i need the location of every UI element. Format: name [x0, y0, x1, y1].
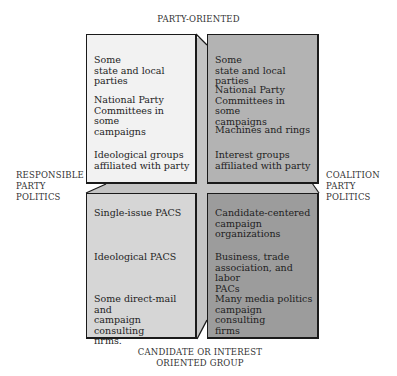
axis-label-line: POLITICS: [16, 192, 84, 203]
item-line: Candidate-centered: [215, 208, 313, 219]
axis-label-party-oriented: PARTY-ORIENTED: [0, 14, 397, 25]
axis-label-line: PARTY: [16, 181, 84, 192]
quadrant-item: National Party Committees in some campai…: [94, 95, 191, 137]
quadrant-item: Ideological PACS: [94, 252, 191, 263]
axis-label-line: RESPONSIBLE: [16, 170, 84, 181]
quadrant-item: Machines and rings: [215, 125, 313, 136]
horizontal-divider: [88, 183, 318, 193]
axis-label-line: CANDIDATE OR INTEREST: [60, 347, 340, 358]
item-line: National Party: [215, 85, 313, 96]
axis-label-line: ORIENTED GROUP: [60, 358, 340, 369]
quadrant-responsible-candidate-oriented: Single-issue PACS Ideological PACS Some …: [86, 193, 197, 339]
quadrant-item: Interest groups affiliated with party: [215, 150, 313, 171]
axis-label-candidate-or-interest-oriented-group: CANDIDATE OR INTEREST ORIENTED GROUP: [60, 347, 340, 369]
item-line: affiliated with party: [215, 161, 313, 172]
quadrant-coalition-candidate-oriented: Candidate-centered campaign organization…: [207, 193, 319, 339]
item-line: Some: [94, 55, 191, 66]
item-line: Ideological groups: [94, 150, 191, 161]
item-line: affiliated with party: [94, 161, 191, 172]
axis-label-responsible-party-politics: RESPONSIBLE PARTY POLITICS: [16, 170, 84, 203]
item-line: campaign consulting: [94, 315, 191, 336]
item-line: Interest groups: [215, 150, 313, 161]
item-line: firms.: [94, 336, 191, 347]
quadrant-item: Candidate-centered campaign organization…: [215, 208, 313, 240]
item-line: Many media politics: [215, 294, 313, 305]
item-line: Business, trade: [215, 252, 313, 263]
item-line: Committees in some: [215, 96, 313, 117]
quadrant-item: National Party Committees in some campai…: [215, 85, 313, 127]
item-line: Some: [215, 55, 313, 66]
item-line: Some direct-mail and: [94, 294, 191, 315]
quadrant-item: Many media politics campaign consulting …: [215, 294, 313, 336]
item-line: campaigns: [94, 127, 191, 138]
item-line: campaign consulting: [215, 305, 313, 326]
item-line: association, and labor: [215, 263, 313, 284]
item-line: state and local parties: [94, 66, 191, 87]
quadrant-item: Single-issue PACS: [94, 208, 191, 219]
axis-label-coalition-party-politics: COALITION PARTY POLITICS: [326, 170, 380, 203]
item-line: Machines and rings: [215, 125, 313, 136]
item-line: organizations: [215, 229, 313, 240]
quadrant-item: Some state and local parties: [94, 55, 191, 87]
item-line: Single-issue PACS: [94, 208, 191, 219]
quadrant-responsible-party-oriented: Some state and local parties National Pa…: [86, 34, 197, 184]
axis-label-line: COALITION: [326, 170, 380, 181]
item-line: Ideological PACS: [94, 252, 191, 263]
axis-label-line: PARTY: [326, 181, 380, 192]
quadrant-item: Some state and local parties: [215, 55, 313, 87]
quadrant-coalition-party-oriented: Some state and local parties National Pa…: [207, 34, 319, 184]
quadrant-item: Business, trade association, and labor P…: [215, 252, 313, 294]
item-line: firms: [215, 326, 313, 337]
item-line: National Party: [94, 95, 191, 106]
item-line: Committees in some: [94, 106, 191, 127]
quadrant-item: Some direct-mail and campaign consulting…: [94, 294, 191, 347]
axis-label-line: POLITICS: [326, 192, 380, 203]
quadrant-item: Ideological groups affiliated with party: [94, 150, 191, 171]
